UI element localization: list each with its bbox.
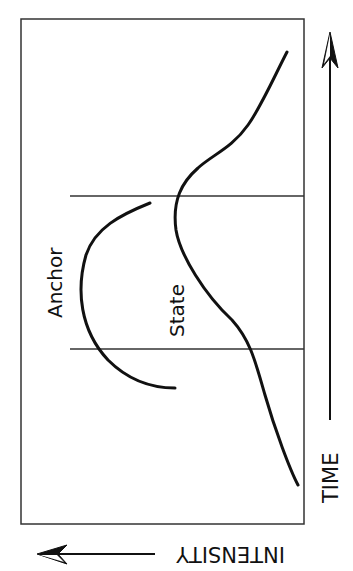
intensity-axis-label: INTENSITY	[176, 542, 285, 566]
anchor-label: Anchor	[43, 247, 67, 318]
anchor-state-diagram: Anchor State TIME INTENSITY	[0, 0, 353, 571]
anchor-curve	[81, 203, 175, 388]
state-curve	[175, 52, 298, 485]
time-axis-label: TIME	[319, 453, 343, 504]
state-label: State	[165, 284, 189, 337]
